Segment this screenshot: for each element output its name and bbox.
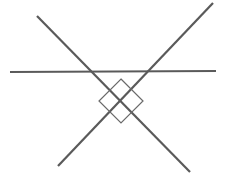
horizontal-line: [10, 71, 216, 72]
diagonal-up-line: [58, 3, 213, 166]
diagram-canvas: [0, 0, 240, 185]
diagonal-down-line: [37, 16, 190, 172]
intersecting-lines-diagram: [0, 0, 240, 185]
